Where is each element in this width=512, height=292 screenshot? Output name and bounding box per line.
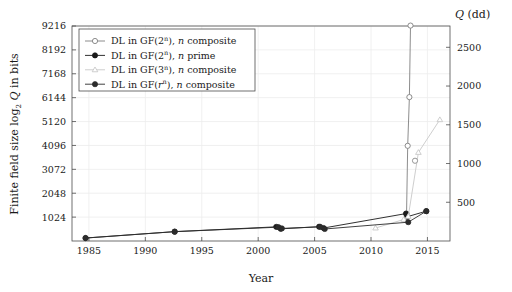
y2-tick-label: 1500 xyxy=(457,119,481,130)
x-tick-label: 2010 xyxy=(359,245,383,256)
data-point-marker xyxy=(424,209,429,214)
data-point-marker xyxy=(407,95,412,100)
y2-tick-label: 1000 xyxy=(457,158,481,169)
y-tick-label: 6144 xyxy=(42,92,66,103)
y-tick-label: 1024 xyxy=(42,212,66,223)
y-axis-label: Finite field size log2 Q in bits xyxy=(8,53,23,215)
data-point-marker xyxy=(172,229,177,234)
y2-tick-label: 2000 xyxy=(457,80,481,91)
x-axis-label: Year xyxy=(248,272,274,285)
data-point-marker xyxy=(412,158,417,163)
y-tick-label: 7168 xyxy=(42,68,66,79)
data-point-marker xyxy=(92,38,97,43)
data-point-marker xyxy=(408,23,413,28)
x-tick-label: 2000 xyxy=(246,245,270,256)
legend-label: DL in GF(2n), n prime xyxy=(111,49,216,61)
x-tick-label: 2005 xyxy=(303,245,327,256)
legend-label: DL in GF(3n), n composite xyxy=(111,64,237,76)
y2-axis-label: Q (dd) xyxy=(455,8,490,21)
x-tick-label: 1995 xyxy=(190,245,214,256)
extra-markers xyxy=(412,158,417,163)
chart-figure: 102420483072409651206144716881929216 500… xyxy=(0,0,512,292)
x-tick-label: 1990 xyxy=(133,245,157,256)
y-tick-label: 2048 xyxy=(42,188,66,199)
chart-svg: 102420483072409651206144716881929216 500… xyxy=(0,0,512,292)
y-tick-label: 3072 xyxy=(42,164,66,175)
legend-label: DL in GF(2n), n composite xyxy=(111,35,237,47)
data-point-marker xyxy=(92,82,97,87)
data-point-marker xyxy=(405,143,410,148)
data-point-marker xyxy=(322,226,327,231)
legend-label: DL in GF(rn), n composite xyxy=(111,78,235,90)
chart-legend: DL in GF(2n), n compositeDL in GF(2n), n… xyxy=(79,29,255,91)
data-point-marker xyxy=(279,226,284,231)
data-point-marker xyxy=(92,53,97,58)
y-tick-label: 8192 xyxy=(42,44,66,55)
y2-tick-label: 500 xyxy=(457,197,475,208)
data-point-marker xyxy=(83,235,88,240)
y2-tick-label: 2500 xyxy=(457,42,481,53)
y-tick-label: 9216 xyxy=(42,20,66,31)
x-tick-label: 1985 xyxy=(77,245,101,256)
y-tick-label: 5120 xyxy=(42,116,66,127)
x-tick-label: 2015 xyxy=(415,245,439,256)
y-tick-label: 4096 xyxy=(42,140,66,151)
data-point-marker xyxy=(406,220,411,225)
